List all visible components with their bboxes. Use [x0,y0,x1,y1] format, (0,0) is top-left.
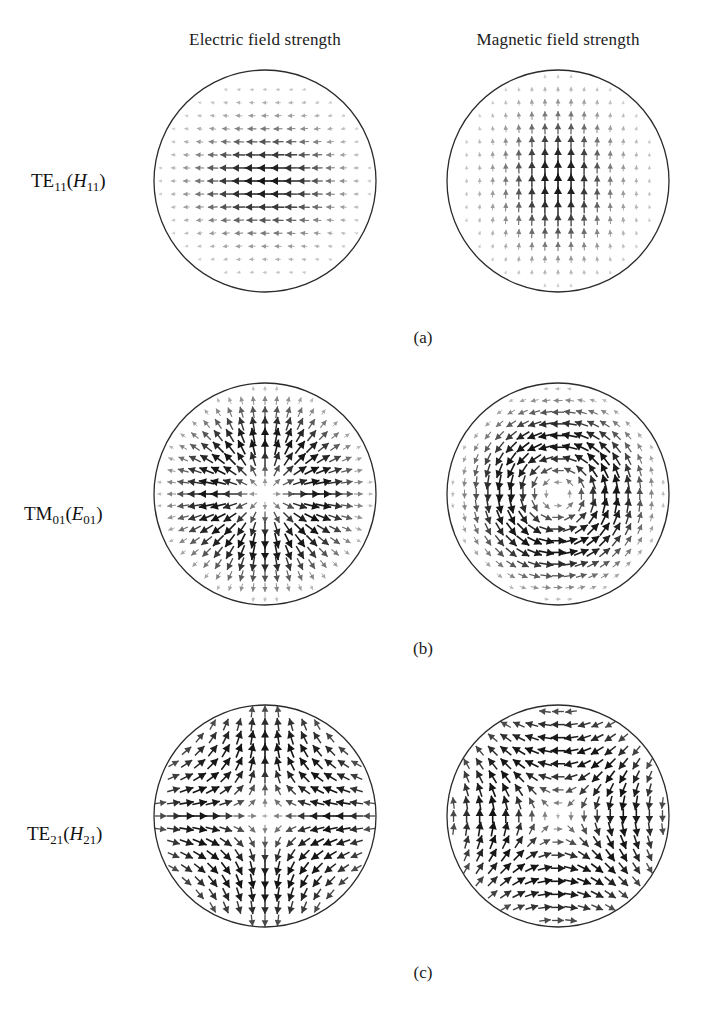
field-arrow-head [558,877,565,885]
field-arrow-head [606,816,614,823]
field-arrow-head [552,708,558,715]
field-arrow-head [568,815,573,820]
field-arrow-head [515,784,522,792]
field-arrow-head [463,796,470,803]
field-arrow-head [544,904,551,911]
field-arrow-head [558,839,564,845]
field-arrow-head [538,721,545,728]
field-arrow-head [605,734,613,741]
field-arrow-head [500,734,508,741]
field-arrow-head [476,796,484,804]
field-arrow-head [632,828,640,836]
field-arrow-head [578,774,586,781]
field-arrow-head [552,787,558,793]
field-arrow-head [551,747,558,755]
field-arrow-head [526,773,534,780]
field-arrow-head [542,812,547,817]
field-arrow-head [582,852,590,859]
field-arrow-head [646,841,653,848]
field-arrow-head [531,904,538,911]
field-arrow-head [502,796,510,804]
field-arrow-head [476,758,483,766]
field-arrow-head [659,816,666,822]
field-arrow-head [463,809,471,816]
field-arrow-head [551,773,558,780]
field-arrow-head [503,849,511,857]
field-arrow-head [606,774,614,782]
field-arrow-head [513,759,521,767]
field-arrow-head [606,828,614,836]
field-arrow-head [646,816,654,823]
field-arrow-head [570,890,578,898]
field-arrow-head [619,816,627,823]
field-arrow-head [646,789,653,796]
field-arrow-head [489,809,497,816]
field-arrow-head [538,760,546,768]
field-arrow-head [476,863,483,871]
field-arrow-head [558,890,565,898]
field-arrow-head [646,828,653,835]
field-arrow-head [554,800,559,805]
field-arrow-head [476,809,484,816]
field-arrow-head [450,810,457,816]
field-arrow-head [583,904,590,911]
field-arrow-head [591,761,599,769]
field-arrow-head [551,734,558,742]
field-arrow-head [463,822,470,829]
field-arrow-head [516,864,524,872]
field-arrow-head [564,721,571,728]
field-arrow-head [501,771,509,779]
field-arrow-head [570,864,578,872]
field-arrow-head [593,788,600,796]
field-arrow-head [594,840,601,848]
field-arrow-head [633,762,640,770]
field-arrow-head [646,802,653,809]
field-arrow-head [463,784,470,791]
field-arrow-head [504,891,512,898]
field-arrow-head [633,866,640,874]
field-arrow-head [570,904,577,911]
field-arrow-head [557,826,562,831]
field-arrow-head [558,917,564,924]
field-arrow-head [607,853,615,861]
field-arrow-head [538,734,546,742]
field-arrow-head [530,851,538,858]
figure-vector-field-grid: Electric field strength Magnetic field s… [0,0,719,1014]
field-arrow-head [558,864,565,872]
field-arrow-head [556,815,560,819]
field-arrow-head [551,760,558,768]
field-arrow-head [595,865,603,873]
field-arrow-head [515,809,522,816]
field-arrow-head [526,721,533,728]
field-arrow-head [632,816,640,823]
field-arrow-head [581,816,587,822]
panel-te21-H [0,0,719,1014]
field-arrow-head [593,816,600,823]
field-arrow-head [502,809,510,816]
field-arrow-head [529,810,535,816]
field-arrow-head [516,836,523,844]
field-arrow-head [558,851,565,858]
field-arrow-head [558,904,565,912]
field-arrow-head [578,721,585,728]
field-arrow-head [608,891,616,898]
field-arrow-head [463,836,470,843]
field-arrow-head [551,721,558,729]
